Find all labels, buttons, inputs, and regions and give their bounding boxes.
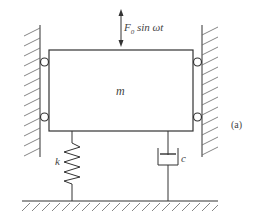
right-wall (202, 25, 218, 157)
ground (22, 201, 218, 211)
damper-c (158, 131, 178, 201)
spring-label: k (55, 155, 60, 167)
spring-k (64, 131, 80, 201)
force-expression: sin ωt (134, 21, 163, 33)
force-label: F0 sin ωt (124, 21, 163, 36)
roller-left-bottom (41, 113, 49, 121)
force-symbol: F (124, 21, 131, 33)
left-wall (24, 25, 40, 157)
roller-right-bottom (194, 113, 202, 121)
panel-label: (a) (231, 119, 242, 130)
roller-left-top (41, 58, 49, 66)
mass-label: m (116, 84, 125, 99)
roller-right-top (194, 58, 202, 66)
force-arrow-icon (119, 9, 124, 47)
damper-label: c (181, 152, 186, 164)
